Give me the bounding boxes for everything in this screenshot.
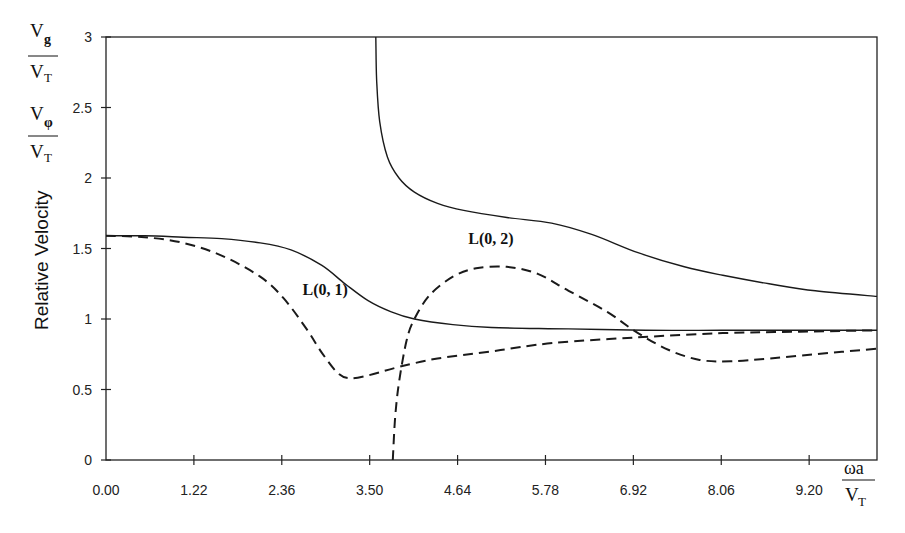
y-unit-vphi-den-sub: T (44, 150, 52, 165)
series-l-0-2-phase-velocity (376, 37, 877, 296)
y-tick-label: 3 (84, 29, 92, 45)
series-l-0-1-group-velocity (106, 236, 877, 379)
y-tick-label: 0 (84, 452, 92, 468)
x-tick-label: 2.36 (268, 482, 295, 498)
curve-label-01: L(0, 1) (303, 281, 348, 299)
curve-label-02: L(0, 2) (468, 230, 513, 248)
y-unit-vg-main: V (30, 20, 44, 41)
x-unit-den-sub: T (858, 494, 866, 509)
y-unit-vg-den-sub: T (44, 70, 52, 85)
y-tick-label: 1.5 (73, 241, 93, 257)
x-unit-den-main: V (845, 484, 859, 505)
y-tick-label: 0.5 (73, 382, 93, 398)
x-unit-label: ωa V T (842, 458, 875, 509)
y-unit-vg-sub: g (44, 32, 51, 47)
y-unit-vg-den-main: V (30, 61, 44, 82)
y-unit-vphi-sub: φ (44, 115, 53, 130)
y-axis-title: Relative Velocity (31, 190, 52, 330)
y-tick-label: 1 (84, 311, 92, 327)
x-tick-label: 0.00 (92, 482, 119, 498)
x-tick-label: 3.50 (356, 482, 383, 498)
x-tick-label: 6.92 (620, 482, 647, 498)
x-tick-label: 1.22 (180, 482, 207, 498)
x-unit-num: ωa (844, 458, 864, 478)
y-unit-label-phase-velocity: V φ V T (28, 103, 58, 165)
x-tick-label: 4.64 (444, 482, 471, 498)
x-tick-label: 8.06 (708, 482, 735, 498)
x-tick-label: 5.78 (532, 482, 559, 498)
y-unit-label-group-velocity: V g V T (28, 20, 58, 85)
x-tick-label: 9.20 (796, 482, 823, 498)
y-unit-vphi-main: V (30, 103, 44, 124)
series-l-0-2-group-velocity (393, 266, 877, 460)
y-tick-label: 2.5 (73, 100, 93, 116)
plot-frame (106, 37, 877, 460)
y-unit-vphi-den-main: V (30, 141, 44, 162)
velocity-dispersion-chart: 0.001.222.363.504.645.786.928.069.2000.5… (0, 0, 905, 533)
y-tick-label: 2 (84, 170, 92, 186)
